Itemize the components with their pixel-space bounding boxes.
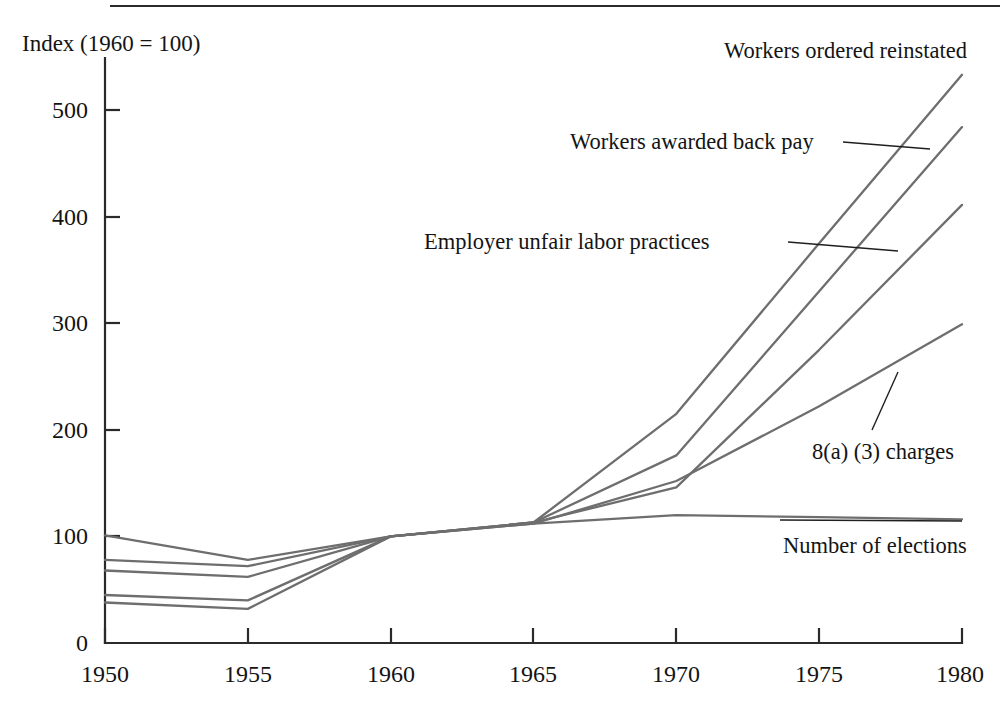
annotation-workers-awarded-back-pay: Workers awarded back pay (570, 131, 814, 154)
annotation-employer-unfair-labor-practices: Employer unfair labor practices (424, 231, 710, 254)
x-tick-label-1965: 1965 (488, 662, 578, 686)
y-tick-label-200: 200 (18, 418, 88, 442)
x-tick-label-1955: 1955 (203, 662, 293, 686)
chart-figure: Index (1960 = 100) 500 400 300 200 100 0… (0, 0, 1000, 715)
leader-number-of-elections (780, 520, 962, 521)
y-tick-marks (105, 110, 120, 536)
series-line-workers-ordered-reinstated (105, 75, 962, 609)
plot-canvas (0, 0, 1000, 715)
y-tick-label-0: 0 (18, 631, 88, 655)
x-tick-label-1980: 1980 (915, 662, 1000, 686)
y-tick-label-300: 300 (18, 311, 88, 335)
y-tick-label-100: 100 (18, 524, 88, 548)
annotation-number-of-elections: Number of elections (783, 535, 967, 558)
x-tick-label-1970: 1970 (631, 662, 721, 686)
y-tick-label-500: 500 (18, 98, 88, 122)
annotation-8a3-charges: 8(a) (3) charges (812, 441, 954, 464)
leader-employer-unfair-labor-practices (788, 242, 898, 251)
x-tick-marks (105, 628, 962, 643)
leader-8a3-charges (872, 372, 898, 430)
y-axis-title: Index (1960 = 100) (22, 32, 200, 55)
x-tick-label-1975: 1975 (774, 662, 864, 686)
series-line-workers-awarded-back-pay (105, 127, 962, 600)
x-tick-label-1950: 1950 (60, 662, 150, 686)
annotation-workers-ordered-reinstated: Workers ordered reinstated (724, 40, 967, 63)
leader-workers-awarded-back-pay (843, 142, 930, 149)
y-tick-label-400: 400 (18, 205, 88, 229)
series-paths (105, 75, 962, 609)
x-tick-label-1960: 1960 (346, 662, 436, 686)
annotation-leaders (780, 142, 962, 521)
